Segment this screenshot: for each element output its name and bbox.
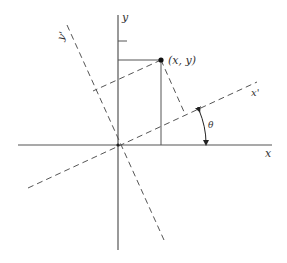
angle-theta-label: θ (208, 120, 214, 130)
diagram-canvas: y x x' y' (x, y) θ (0, 0, 287, 263)
point-label: (x, y) (168, 54, 196, 67)
x-prime-axis-label: x' (251, 87, 259, 98)
angle-theta-arc (199, 110, 206, 143)
projection-to-x-prime-axis (161, 60, 185, 114)
rotated-axes-diagram: y x x' y' (x, y) θ (0, 0, 287, 263)
y-prime-axis-label: y' (54, 30, 68, 43)
y-prime-axis (67, 25, 164, 240)
origin-marker (116, 143, 119, 146)
x-axis-label: x (265, 147, 272, 160)
point-marker (158, 57, 163, 62)
projection-to-y-prime-axis (93, 60, 161, 91)
y-axis-label: y (121, 11, 129, 24)
x-prime-axis (28, 82, 257, 188)
